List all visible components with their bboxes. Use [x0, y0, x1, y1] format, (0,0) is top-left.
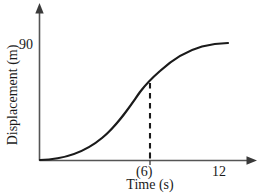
displacement-curve [40, 43, 228, 160]
y-axis-tick-label-90: 90 [19, 38, 33, 52]
x-axis-arrow-right-icon [247, 156, 258, 164]
x-axis-tick-label-12: 12 [212, 165, 226, 179]
x-axis-label: Time (s) [110, 178, 190, 192]
y-axis-arrow-up-icon [35, 3, 43, 14]
y-axis-label: Displacement (m) [6, 40, 20, 150]
displacement-time-chart: Displacement (m) 90 (6) 12 Time (s) [0, 0, 261, 195]
